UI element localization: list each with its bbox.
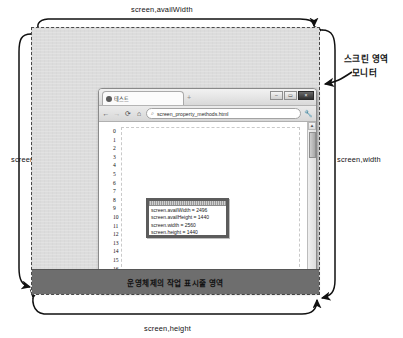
window-controls[interactable]: – ▭ × [270, 91, 314, 100]
os-taskbar: 운영체제의 작업 표시줄 영역 [32, 269, 319, 294]
alert-message: screen.availWidth = 2496 screen.availHei… [149, 206, 226, 237]
taskbar-label: 운영체제의 작업 표시줄 영역 [127, 277, 223, 288]
callout-screen-area-label: 스크린 영역 [344, 52, 388, 64]
search-icon: ⌕ [151, 111, 154, 117]
line-number: 6 [113, 179, 116, 188]
vertical-scroll-thumb[interactable] [309, 132, 316, 158]
label-screen-availwidth: screen,availWidth [131, 5, 193, 14]
reload-icon[interactable]: ⟳ [124, 110, 132, 117]
line-number: 13 [113, 239, 119, 248]
line-number: 15 [113, 256, 119, 265]
callout-monitor-label: 모니터 [352, 66, 377, 78]
back-icon[interactable]: ← [102, 110, 110, 117]
tab-title: 테스트 [114, 95, 129, 102]
label-screen-width: screen,width [337, 155, 381, 164]
arrow-screen-width [322, 30, 335, 298]
address-bar-url: screen_property_methods.html [157, 111, 229, 117]
home-icon[interactable]: ⌂ [135, 110, 143, 117]
alert-line-availheight: screen.availHeight = 1440 [151, 214, 224, 221]
line-number: 0 [113, 127, 116, 136]
label-screen-height: screen,height [144, 324, 191, 333]
screen-area: 테스트 × + – ▭ × ← → ⟳ ⌂ ⌕ screen_property_… [31, 27, 320, 295]
favicon-icon [106, 96, 112, 102]
wrench-menu-icon[interactable]: 🔧 [304, 110, 313, 117]
new-tab-icon[interactable]: + [187, 94, 191, 101]
line-number: 10 [113, 213, 119, 222]
line-number: 11 [113, 222, 118, 231]
vertical-scrollbar[interactable]: ▲ ▼ [307, 122, 316, 293]
minimize-button[interactable]: – [270, 91, 283, 100]
browser-tab[interactable]: 테스트 [102, 91, 184, 105]
line-number-gutter: 0 1 2 3 4 5 6 7 8 9 10 11 12 13 14 15 16 [113, 127, 127, 273]
browser-toolbar[interactable]: ← → ⟳ ⌂ ⌕ screen_property_methods.html 🔧 [99, 106, 316, 122]
line-number: 12 [113, 230, 119, 239]
line-number: 5 [113, 170, 116, 179]
close-button[interactable]: × [298, 91, 314, 100]
line-number: 7 [113, 187, 116, 196]
alert-line-availwidth: screen.availWidth = 2496 [151, 207, 224, 214]
browser-titlebar[interactable]: 테스트 × + – ▭ × [99, 89, 316, 106]
line-number: 3 [113, 153, 116, 162]
forward-icon[interactable]: → [113, 110, 121, 117]
alert-dialog[interactable]: screen.availWidth = 2496 screen.availHei… [146, 198, 229, 238]
line-number: 14 [113, 247, 119, 256]
line-number: 2 [113, 144, 116, 153]
line-number: 8 [113, 196, 116, 205]
maximize-button[interactable]: ▭ [284, 91, 297, 100]
line-number: 1 [113, 136, 116, 145]
arrow-avail-width [38, 19, 314, 27]
address-bar[interactable]: ⌕ screen_property_methods.html [146, 108, 301, 119]
browser-window[interactable]: 테스트 × + – ▭ × ← → ⟳ ⌂ ⌕ screen_property_… [98, 88, 317, 293]
arrow-callout-monitor [325, 72, 352, 84]
arrow-screen-height [33, 298, 317, 314]
screen-dimensions-diagram: screen,availWidth screen,availHeight scr… [0, 0, 403, 338]
browser-viewport: 0 1 2 3 4 5 6 7 8 9 10 11 12 13 14 15 16 [99, 122, 316, 293]
line-number: 4 [113, 161, 116, 170]
alert-line-height: screen.height = 1440 [151, 229, 224, 236]
scroll-up-icon[interactable]: ▲ [308, 122, 316, 130]
line-number: 9 [113, 204, 116, 213]
alert-line-width: screen.width = 2560 [151, 222, 224, 229]
